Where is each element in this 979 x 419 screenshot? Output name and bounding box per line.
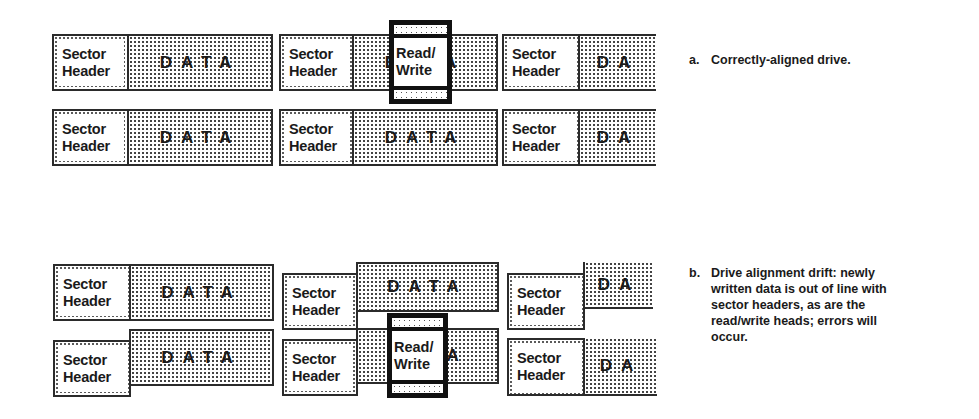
data-block: DATA <box>129 264 274 321</box>
data-block-shifted: DATA <box>356 262 499 312</box>
sector-header: SectorHeader <box>52 34 129 91</box>
read-write-head: Read/Write <box>389 20 452 104</box>
data-block: DATA <box>127 109 273 166</box>
sector-header: SectorHeader <box>502 34 580 91</box>
sector-header: SectorHeader <box>282 273 358 330</box>
sector-header: SectorHeader <box>507 338 585 396</box>
sector-header: SectorHeader <box>52 109 129 166</box>
caption-b-marker: b. <box>689 265 711 345</box>
sector-header: SectorHeader <box>53 340 131 397</box>
caption-a: a.Correctly-aligned drive. <box>689 52 949 68</box>
data-block: DATA <box>352 109 498 166</box>
sector-header: SectorHeader <box>502 109 580 166</box>
data-block: DATA <box>127 34 273 91</box>
head-top-band <box>392 318 443 331</box>
read-write-head-misaligned: Read/Write <box>387 313 448 398</box>
caption-a-text: Correctly-aligned drive. <box>711 53 851 67</box>
data-block-partial: DA <box>583 338 657 396</box>
data-block-partial: DA <box>578 34 656 91</box>
head-bottom-band <box>392 380 443 393</box>
caption-b-text: Drive alignment drift: newly written dat… <box>711 265 891 345</box>
head-top-band <box>394 25 447 38</box>
caption-a-marker: a. <box>689 52 711 68</box>
caption-b: b. Drive alignment drift: newly written … <box>689 265 891 345</box>
head-bottom-band <box>394 86 447 99</box>
sector-header: SectorHeader <box>507 273 585 330</box>
data-block-partial: DA <box>578 109 656 166</box>
data-block-shifted: DATA <box>129 329 274 386</box>
sector-header: SectorHeader <box>279 109 354 166</box>
sector-header: SectorHeader <box>53 264 131 321</box>
sector-header: SectorHeader <box>279 34 354 91</box>
sector-header: SectorHeader <box>282 339 358 396</box>
data-block-partial-shifted: DA <box>583 262 653 309</box>
